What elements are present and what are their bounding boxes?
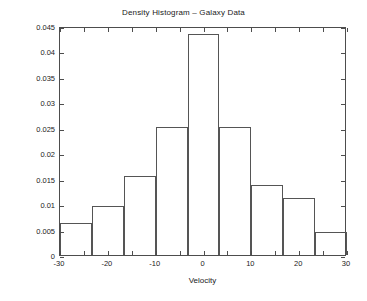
x-axis-tick-top <box>251 28 252 32</box>
chart-title: Density Histogram – Galaxy Data <box>0 8 367 17</box>
x-axis-tick-top <box>84 28 85 32</box>
x-axis-tick-top <box>227 28 228 32</box>
y-axis-tick-right <box>341 130 345 131</box>
y-axis-tick-right <box>341 257 345 258</box>
y-axis-tick <box>60 53 64 54</box>
y-axis-tick-right <box>341 181 345 182</box>
x-axis-tick-top <box>204 28 205 32</box>
y-axis-tick-label: 0.03 <box>40 99 55 108</box>
y-axis-tick <box>60 104 64 105</box>
y-axis-tick-label: 0.01 <box>40 201 55 210</box>
y-axis-tick <box>60 130 64 131</box>
x-axis-tick-top <box>275 28 276 32</box>
y-axis-tick-right <box>341 79 345 80</box>
y-axis-tick-label: 0.045 <box>36 23 55 32</box>
x-axis-tick <box>275 251 276 255</box>
x-axis-tick <box>156 251 157 255</box>
y-axis-tick-label: 0.025 <box>36 124 55 133</box>
x-axis-tick-top <box>347 28 348 32</box>
x-axis-tick <box>180 251 181 255</box>
x-axis-tick-top <box>60 28 61 32</box>
x-axis-tick-top <box>323 28 324 32</box>
y-axis-tick-right <box>341 28 345 29</box>
x-axis-tick-top <box>132 28 133 32</box>
y-axis-tick <box>60 232 64 233</box>
x-axis-tick-label: 10 <box>246 259 254 268</box>
y-axis-tick-label: 0.035 <box>36 73 55 82</box>
x-axis-tick <box>132 251 133 255</box>
x-axis-tick-top <box>299 28 300 32</box>
x-axis-tick <box>60 251 61 255</box>
y-axis-tick <box>60 257 64 258</box>
x-axis-tick <box>227 251 228 255</box>
x-axis-tick-top <box>108 28 109 32</box>
y-axis-tick-right <box>341 206 345 207</box>
x-axis-tick-top <box>180 28 181 32</box>
y-axis-tick-right <box>341 104 345 105</box>
x-axis-tick <box>84 251 85 255</box>
figure-canvas: Density Histogram – Galaxy Data 00.0050.… <box>0 0 367 301</box>
x-axis-tick-label: 0 <box>200 259 204 268</box>
x-axis-tick <box>204 251 205 255</box>
y-axis-tick <box>60 155 64 156</box>
x-axis-tick-label: 30 <box>342 259 350 268</box>
x-axis-tick <box>323 251 324 255</box>
x-axis-tick-top <box>156 28 157 32</box>
x-axis-tick <box>347 251 348 255</box>
x-axis-tick-label: -10 <box>149 259 160 268</box>
x-axis-tick <box>251 251 252 255</box>
plot-area <box>59 27 346 256</box>
y-axis-tick <box>60 181 64 182</box>
x-axis-tick <box>108 251 109 255</box>
x-axis-tick <box>299 251 300 255</box>
y-axis-tick-label: 0.005 <box>36 226 55 235</box>
x-axis-label: Velocity <box>59 276 346 285</box>
x-axis-tick-label: -30 <box>54 259 65 268</box>
y-axis-tick-label: 0.04 <box>40 48 55 57</box>
y-axis-tick-label: 0.015 <box>36 175 55 184</box>
x-axis-tick-label: 20 <box>294 259 302 268</box>
y-axis-tick-right <box>341 53 345 54</box>
y-axis-tick <box>60 206 64 207</box>
x-axis-tick-label: -20 <box>101 259 112 268</box>
y-axis-tick-right <box>341 155 345 156</box>
y-axis-tick-label: 0.02 <box>40 150 55 159</box>
y-axis-tick-right <box>341 232 345 233</box>
axis-ticks <box>60 28 345 255</box>
y-axis-tick <box>60 79 64 80</box>
